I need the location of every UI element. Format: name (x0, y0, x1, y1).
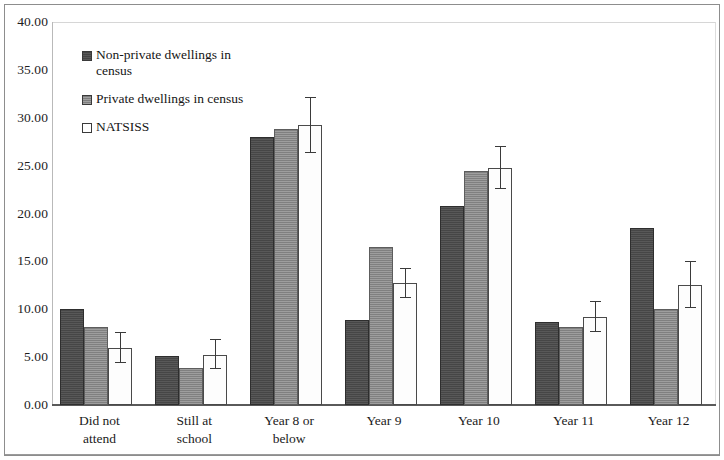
error-bar-cap-upper (115, 332, 126, 333)
legend-item: NATSISS (82, 119, 267, 135)
x-axis-tick-label: Year 10 (431, 412, 526, 430)
error-bar-line (120, 333, 121, 363)
x-axis-tick-label: Did notattend (52, 412, 147, 448)
bar (60, 309, 84, 405)
error-bar-cap-lower (305, 152, 316, 153)
y-axis-tick-label: 0.00 (4, 397, 48, 413)
error-bar-cap-lower (590, 331, 601, 332)
error-bar-cap-upper (305, 97, 316, 98)
bar (250, 137, 274, 405)
bar (654, 309, 678, 405)
error-bar-cap-lower (685, 307, 696, 308)
x-axis-tick-label-line: attend (52, 430, 147, 448)
bar (464, 171, 488, 405)
legend-item: Private dwellings in census (82, 91, 267, 107)
y-axis-tick-label: 10.00 (4, 301, 48, 317)
x-axis-tick-label-line: Year 10 (431, 412, 526, 430)
error-bar-line (405, 269, 406, 298)
legend-swatch-icon (82, 95, 92, 105)
legend-label: NATSISS (96, 119, 149, 135)
bar-group (345, 22, 417, 405)
chart-figure: 0.005.0010.0015.0020.0025.0030.0035.0040… (0, 0, 724, 460)
error-bar-line (310, 98, 311, 154)
x-axis-tick-label-line: Year 9 (337, 412, 432, 430)
y-axis-tick-label: 35.00 (4, 62, 48, 78)
x-axis-tick-label: Year 11 (526, 412, 621, 430)
error-bar-cap-upper (400, 268, 411, 269)
bar (559, 327, 583, 406)
error-bar-cap-upper (590, 301, 601, 302)
bar (393, 283, 417, 405)
x-axis-tick-label-line: Still at (147, 412, 242, 430)
bar (630, 228, 654, 405)
y-axis-tick-label: 25.00 (4, 158, 48, 174)
error-bar-line (215, 340, 216, 369)
bar (84, 327, 108, 405)
bar (488, 168, 512, 405)
x-axis-tick-label-line: Year 12 (621, 412, 716, 430)
chart-legend: Non-private dwellings in censusPrivate d… (82, 47, 267, 147)
bar-group (535, 22, 607, 405)
error-bar-cap-lower (115, 362, 126, 363)
x-axis-tick-label: Year 8 orbelow (242, 412, 337, 448)
legend-swatch-icon (82, 123, 92, 133)
error-bar-cap-upper (495, 146, 506, 147)
bar (345, 320, 369, 405)
bar (298, 125, 322, 405)
bar (440, 206, 464, 405)
legend-swatch-icon (82, 51, 92, 61)
bar (155, 356, 179, 405)
x-axis-tick-label-line: Year 11 (526, 412, 621, 430)
legend-item: Non-private dwellings in census (82, 47, 267, 79)
error-bar-line (690, 262, 691, 308)
bar (274, 129, 298, 405)
error-bar-cap-upper (685, 261, 696, 262)
error-bar-line (500, 147, 501, 188)
y-axis-tick-label: 20.00 (4, 206, 48, 222)
x-axis-tick-label-line: Did not (52, 412, 147, 430)
bar (535, 322, 559, 405)
error-bar-cap-upper (210, 339, 221, 340)
y-axis-tick-labels: 0.005.0010.0015.0020.0025.0030.0035.0040… (0, 0, 48, 460)
x-axis-tick-label-line: school (147, 430, 242, 448)
x-axis-tick-label: Year 12 (621, 412, 716, 430)
error-bar-cap-lower (400, 297, 411, 298)
bar-group (440, 22, 512, 405)
y-axis-tick-label: 15.00 (4, 253, 48, 269)
x-axis-tick-label-line: below (242, 430, 337, 448)
error-bar-cap-lower (495, 188, 506, 189)
figure-bottom-rule (5, 454, 719, 455)
y-axis-tick-label: 30.00 (4, 110, 48, 126)
x-axis-tick-label: Still atschool (147, 412, 242, 448)
bar (369, 247, 393, 405)
error-bar-cap-lower (210, 368, 221, 369)
y-axis-tick-label: 5.00 (4, 349, 48, 365)
bar-group (630, 22, 702, 405)
legend-label: Private dwellings in census (96, 91, 243, 107)
legend-label: Non-private dwellings in census (96, 47, 267, 79)
bar (179, 368, 203, 405)
x-axis-tick-label: Year 9 (337, 412, 432, 430)
y-axis-tick-label: 40.00 (4, 14, 48, 30)
x-axis-tick-labels: Did notattendStill atschoolYear 8 orbelo… (52, 412, 716, 458)
error-bar-line (595, 302, 596, 333)
x-axis-tick-label-line: Year 8 or (242, 412, 337, 430)
